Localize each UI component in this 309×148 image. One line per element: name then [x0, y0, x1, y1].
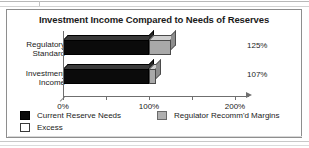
bar-segment-regulator-margins — [149, 40, 171, 55]
category-label-regulatory-standard: Regulatory Standard — [0, 40, 65, 58]
bar-segment-front-face — [63, 40, 149, 55]
value-label-investment-income: 107% — [247, 70, 267, 79]
category-label-investment-income: Investment Income — [0, 69, 65, 87]
category-label-line-2: Standard — [0, 49, 65, 58]
chart-title: Investment Income Compared to Needs of R… — [7, 14, 301, 25]
x-axis-minor-tick-50 — [106, 96, 107, 100]
legend-separator — [8, 136, 302, 137]
scan-artifact-rule-top — [0, 1, 309, 2]
legend-item-excess: Excess — [20, 122, 121, 133]
scan-artifact-rule-top-second — [0, 6, 309, 7]
legend-column-right: Regulator Recomm'd Margins — [157, 110, 280, 122]
bar-segment-current-reserve-needs — [63, 40, 149, 55]
x-axis-arrow-icon — [246, 92, 252, 98]
bar-segment-regulator-margins — [149, 69, 156, 84]
bar-segment-side-face — [171, 30, 176, 50]
legend-item-current-reserve-needs: Current Reserve Needs — [20, 110, 121, 121]
bar-segment-front-face — [149, 69, 156, 84]
category-label-line-1: Investment — [0, 69, 65, 78]
axis-left-wall — [63, 31, 64, 96]
bar-segment-front-face — [63, 69, 149, 84]
scan-artifact-rule-bottom-second — [0, 145, 309, 146]
chart-legend: Current Reserve Needs Excess Regulator R… — [7, 110, 303, 138]
legend-label: Current Reserve Needs — [37, 111, 121, 120]
x-axis-tick-200 — [235, 96, 236, 100]
legend-label: Excess — [37, 123, 63, 132]
x-axis-tick-0 — [63, 96, 64, 100]
category-label-line-1: Regulatory — [0, 40, 65, 49]
scan-artifact-rule-bottom — [0, 141, 309, 142]
bar-segment-side-face — [156, 59, 161, 79]
bar-segment-current-reserve-needs — [63, 69, 149, 84]
value-label-regulatory-standard: 125% — [247, 41, 267, 50]
legend-column-left: Current Reserve Needs Excess — [20, 110, 121, 134]
legend-swatch-white-icon — [20, 123, 30, 132]
legend-swatch-black-icon — [20, 111, 30, 120]
bar-segment-front-face — [149, 40, 171, 55]
chart-frame: Investment Income Compared to Needs of R… — [6, 9, 302, 138]
category-label-line-2: Income — [0, 78, 65, 87]
legend-label: Regulator Recomm'd Margins — [174, 111, 280, 120]
legend-swatch-gray-icon — [157, 111, 167, 120]
x-axis-line — [63, 96, 249, 97]
x-axis-tick-100 — [149, 96, 150, 100]
legend-item-regulator-margins: Regulator Recomm'd Margins — [157, 110, 280, 121]
x-axis-minor-tick-150 — [192, 96, 193, 100]
plot-area: Regulatory Standard Investment Income — [7, 28, 303, 104]
